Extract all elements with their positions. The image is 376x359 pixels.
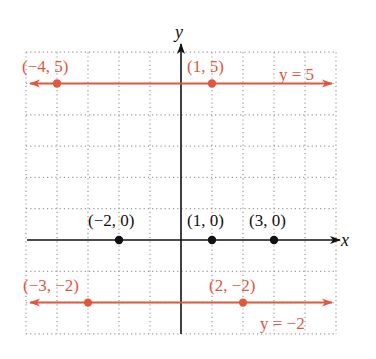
data-point <box>84 298 92 306</box>
point-label: (1, 0) <box>187 211 224 230</box>
line-label-y-equals-5: y = 5 <box>279 65 314 84</box>
point-label: (−4, 5) <box>22 57 68 76</box>
coordinate-plane: x y (−4, 5)(1, 5)(−3, −2)(2, −2)(−2, 0)(… <box>0 0 376 359</box>
x-axis-label: x <box>340 230 349 250</box>
data-point <box>208 79 216 87</box>
point-label: (2, −2) <box>209 276 255 295</box>
line-label-y-equals-minus-2: y = −2 <box>260 314 305 333</box>
y-axis-label: y <box>173 22 183 42</box>
data-point <box>239 298 247 306</box>
point-label: (−3, −2) <box>23 276 79 295</box>
data-point <box>115 236 123 244</box>
point-label: (−2, 0) <box>88 211 134 230</box>
point-label: (1, 5) <box>187 57 224 76</box>
data-point <box>53 79 61 87</box>
data-point <box>208 236 216 244</box>
series-layer: (−4, 5)(1, 5)(−3, −2)(2, −2)(−2, 0)(1, 0… <box>22 57 332 307</box>
data-point <box>270 236 278 244</box>
point-label: (3, 0) <box>249 211 286 230</box>
